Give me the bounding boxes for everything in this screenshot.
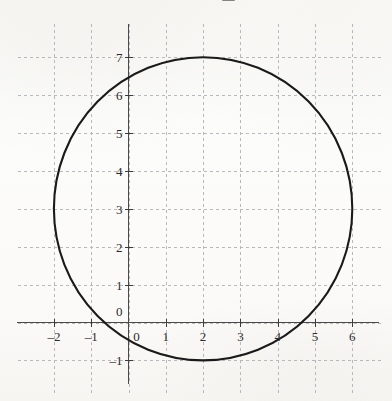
y-tick-label-6: 6 (116, 89, 123, 102)
y-tick-label-5: 5 (116, 127, 123, 140)
y-tick-label-1: 1 (116, 278, 123, 291)
figure-canvas: –2–10123456 –101234567 (0, 0, 392, 401)
y-tick-label-4: 4 (116, 164, 123, 177)
y-tick-label-0: 0 (116, 304, 123, 317)
x-tick-label-0: 0 (133, 330, 140, 343)
x-tick-label-4: 4 (274, 330, 281, 343)
y-tick-label-7: 7 (116, 51, 123, 64)
x-tick-label-1: 1 (163, 330, 170, 343)
x-tick-label--1: –1 (85, 330, 98, 343)
x-tick-label--2: –2 (47, 330, 60, 343)
x-tick-label-6: 6 (349, 330, 356, 343)
horizontal-gridlines (18, 58, 381, 361)
y-tick-label-3: 3 (116, 202, 123, 215)
x-tick-label-2: 2 (200, 330, 207, 343)
x-tick-label-5: 5 (312, 330, 319, 343)
y-tick-label--1: –1 (110, 354, 123, 367)
x-tick-label-3: 3 (237, 330, 244, 343)
y-tick-label-2: 2 (116, 240, 123, 253)
